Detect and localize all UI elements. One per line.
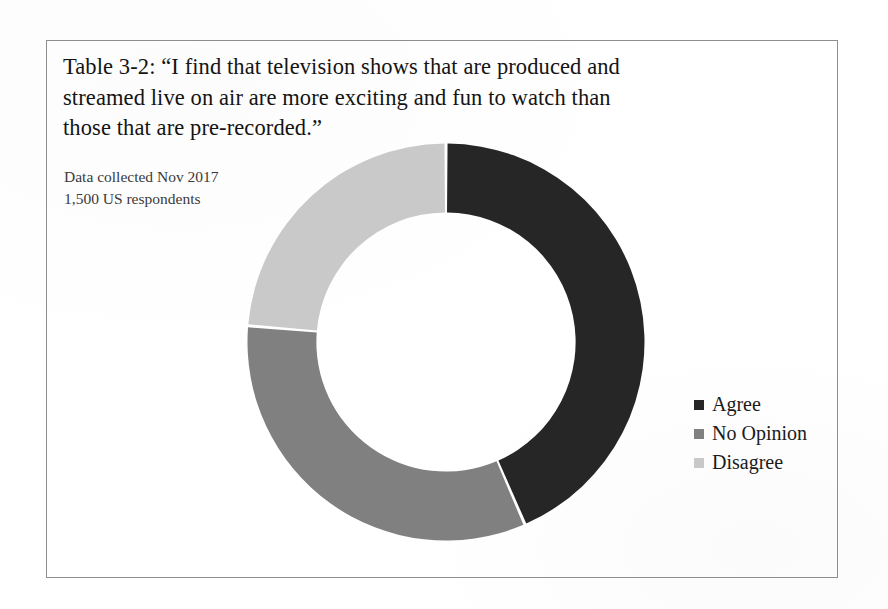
chart-legend: Agree No Opinion Disagree — [694, 389, 834, 476]
page-title: Table 3-2: “I find that television shows… — [63, 52, 663, 144]
donut-chart-svg — [247, 143, 645, 541]
chart-title-line-3: those that are pre-recorded.” — [63, 113, 663, 144]
legend-swatch-icon-disagree — [694, 458, 704, 468]
chart-title-line-1: Table 3-2: “I find that television shows… — [63, 52, 663, 83]
chart-title-line-2: streamed live on air are more exciting a… — [63, 83, 663, 114]
legend-item-agree[interactable]: Agree — [694, 389, 834, 418]
chart-title-block: Table 3-2: “I find that television shows… — [63, 52, 663, 144]
donut-slice-agree[interactable] — [447, 144, 644, 524]
legend-label-disagree: Disagree — [712, 450, 783, 474]
legend-label-agree: Agree — [712, 392, 761, 416]
donut-slice-no-opinion[interactable] — [248, 327, 524, 540]
donut-chart — [247, 143, 645, 541]
legend-swatch-icon-agree — [694, 400, 704, 410]
legend-label-no-opinion: No Opinion — [712, 421, 807, 445]
legend-item-no-opinion[interactable]: No Opinion — [694, 418, 834, 447]
donut-slice-group — [248, 144, 645, 541]
legend-item-disagree[interactable]: Disagree — [694, 447, 834, 476]
legend-swatch-icon-no-opinion — [694, 429, 704, 439]
donut-slice-disagree[interactable] — [248, 144, 445, 331]
